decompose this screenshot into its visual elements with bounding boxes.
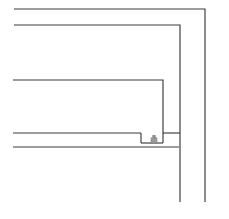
technical-drawing-canvas (0, 0, 229, 219)
drawing-svg (0, 0, 229, 219)
drawing-background (0, 0, 229, 219)
fastener-head-body (151, 138, 157, 143)
fastener-head-cap (152, 135, 155, 138)
